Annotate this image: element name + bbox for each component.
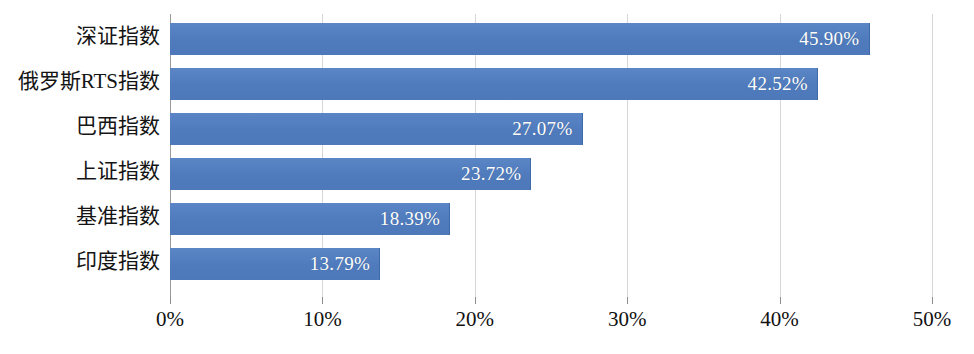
bar-3[interactable]: 23.72%	[170, 158, 531, 190]
bar-row: 13.79%	[170, 239, 932, 284]
x-tick-mark-10%	[322, 297, 323, 304]
bar-row: 45.90%	[170, 14, 932, 59]
category-label-2: 巴西指数	[0, 104, 170, 149]
x-tick-label-20%: 20%	[456, 307, 495, 332]
bar-1[interactable]: 42.52%	[170, 68, 818, 100]
bar-row: 27.07%	[170, 104, 932, 149]
category-label-row: 巴西指数	[0, 104, 170, 149]
gridline-50%	[932, 14, 933, 297]
x-tick-label-40%: 40%	[760, 307, 799, 332]
category-label-row: 上证指数	[0, 149, 170, 194]
x-tick-mark-50%	[932, 297, 933, 304]
x-tick-mark-0%	[170, 297, 171, 304]
x-tick-label-50%: 50%	[913, 307, 952, 332]
category-label-3: 上证指数	[0, 149, 170, 194]
bar-value-2: 27.07%	[512, 118, 572, 140]
x-tick-label-30%: 30%	[608, 307, 647, 332]
x-tick-label-0%: 0%	[156, 307, 184, 332]
bar-2[interactable]: 27.07%	[170, 113, 583, 145]
bar-row: 18.39%	[170, 194, 932, 239]
bar-value-3: 23.72%	[461, 163, 521, 185]
category-label-0: 深证指数	[0, 14, 170, 59]
category-label-row: 俄罗斯RTS指数	[0, 59, 170, 104]
bar-value-1: 42.52%	[748, 73, 808, 95]
category-label-row: 印度指数	[0, 239, 170, 284]
category-label-4: 基准指数	[0, 194, 170, 239]
x-tick-mark-40%	[780, 297, 781, 304]
category-label-row: 深证指数	[0, 14, 170, 59]
bar-row: 23.72%	[170, 149, 932, 194]
category-axis: 深证指数 俄罗斯RTS指数 巴西指数 上证指数 基准指数 印度指数	[0, 14, 170, 297]
bar-chart: 深证指数 俄罗斯RTS指数 巴西指数 上证指数 基准指数 印度指数 45.90%…	[0, 0, 974, 354]
x-tick-label-10%: 10%	[303, 307, 342, 332]
category-label-5: 印度指数	[0, 239, 170, 284]
bar-value-4: 18.39%	[380, 208, 440, 230]
bar-value-5: 13.79%	[310, 253, 370, 275]
x-tick-mark-20%	[475, 297, 476, 304]
bar-5[interactable]: 13.79%	[170, 248, 380, 280]
bar-row: 42.52%	[170, 59, 932, 104]
value-axis: 0%10%20%30%40%50%	[170, 297, 932, 347]
plot-area: 45.90% 42.52% 27.07% 23.72% 18.39% 13.79	[170, 14, 932, 297]
category-label-row: 基准指数	[0, 194, 170, 239]
bar-0[interactable]: 45.90%	[170, 23, 870, 55]
x-tick-mark-30%	[627, 297, 628, 304]
bar-value-0: 45.90%	[799, 28, 859, 50]
bar-4[interactable]: 18.39%	[170, 203, 450, 235]
category-label-1: 俄罗斯RTS指数	[0, 59, 170, 104]
